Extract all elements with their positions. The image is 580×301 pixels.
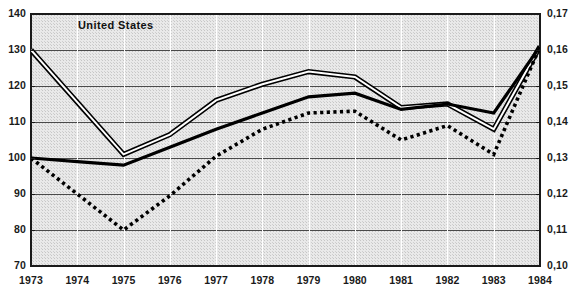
x-axis-tick-label: 1978 xyxy=(242,274,282,286)
x-axis-tick-label: 1982 xyxy=(427,274,467,286)
x-axis-tick-label: 1980 xyxy=(335,274,375,286)
x-axis-tick-label: 1984 xyxy=(520,274,560,286)
y-axis-left-tick-label: 100 xyxy=(0,151,26,163)
y-axis-left-tick-label: 110 xyxy=(0,115,26,127)
y-axis-right-tick-label: 0,14 xyxy=(547,115,577,127)
page-title: United States xyxy=(78,19,154,31)
y-axis-right-tick-label: 0,15 xyxy=(547,79,577,91)
y-axis-right-tick-label: 0,10 xyxy=(547,259,577,271)
x-axis-tick-label: 1977 xyxy=(196,274,236,286)
chart-container: United States 140130120110100908070 0,17… xyxy=(0,0,580,301)
y-axis-left-tick-label: 120 xyxy=(0,79,26,91)
y-axis-left-tick-label: 140 xyxy=(0,7,26,19)
x-axis-tick-label: 1981 xyxy=(381,274,421,286)
x-axis-tick-label: 1979 xyxy=(289,274,329,286)
x-axis-tick-label: 1974 xyxy=(57,274,97,286)
x-axis-tick-label: 1976 xyxy=(150,274,190,286)
y-axis-left-tick-label: 70 xyxy=(0,259,26,271)
x-axis-tick-label: 1973 xyxy=(11,274,51,286)
y-axis-left-tick-label: 130 xyxy=(0,43,26,55)
x-axis-tick-label: 1983 xyxy=(474,274,514,286)
chart-plot-svg xyxy=(0,0,580,301)
y-axis-right-tick-label: 0,17 xyxy=(547,7,577,19)
y-axis-left-tick-label: 80 xyxy=(0,223,26,235)
y-axis-left-tick-label: 90 xyxy=(0,187,26,199)
y-axis-right-tick-label: 0,12 xyxy=(547,187,577,199)
x-axis-tick-label: 1975 xyxy=(104,274,144,286)
y-axis-right-tick-label: 0,11 xyxy=(547,223,577,235)
y-axis-right-tick-label: 0,13 xyxy=(547,151,577,163)
y-axis-right-tick-label: 0,16 xyxy=(547,43,577,55)
